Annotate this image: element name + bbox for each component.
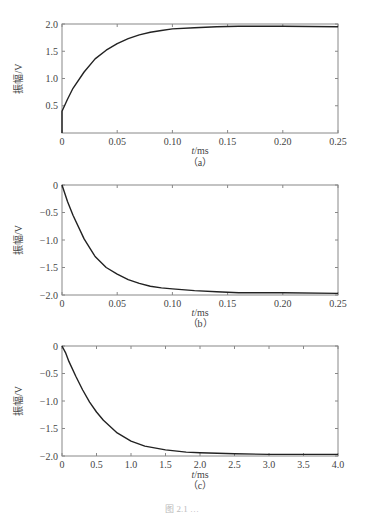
x-tick-label: 0.20 bbox=[274, 136, 292, 147]
x-tick-label: 2.5 bbox=[228, 459, 241, 470]
x-tick-label: 0.25 bbox=[329, 298, 347, 309]
x-tick-label: 0 bbox=[60, 298, 65, 309]
plot-frame bbox=[62, 24, 338, 133]
panel-label: （a） bbox=[188, 157, 212, 168]
y-tick-label: 0 bbox=[53, 180, 58, 191]
y-tick-label: −1.5 bbox=[40, 423, 58, 434]
y-tick-label: −0.5 bbox=[40, 368, 58, 379]
x-tick-label: 0.15 bbox=[219, 298, 237, 309]
x-tick-label: 0.25 bbox=[329, 136, 347, 147]
y-tick-label: 0.5 bbox=[46, 100, 59, 111]
x-tick-label: 3.0 bbox=[263, 459, 276, 470]
x-tick-label: 0.15 bbox=[219, 136, 237, 147]
panel-label: （c） bbox=[188, 480, 212, 491]
x-tick-label: 0.05 bbox=[108, 298, 126, 309]
chart-panel-2: 00.050.100.150.200.250−0.5−1.0−1.5−2.0振幅… bbox=[12, 180, 347, 330]
y-tick-label: −1.0 bbox=[40, 396, 58, 407]
y-tick-label: −2.0 bbox=[40, 290, 58, 301]
x-tick-label: 0.05 bbox=[108, 136, 126, 147]
x-tick-label: 1.5 bbox=[159, 459, 172, 470]
figure-caption: 图 2.1 … bbox=[165, 504, 199, 514]
series-line bbox=[62, 185, 338, 293]
x-tick-label: 0.10 bbox=[164, 298, 182, 309]
y-tick-label: −2.0 bbox=[40, 451, 58, 462]
y-axis-label: 振幅/V bbox=[12, 224, 24, 255]
x-tick-label: 3.5 bbox=[297, 459, 310, 470]
x-tick-label: 0 bbox=[60, 136, 65, 147]
x-tick-label: 0.10 bbox=[164, 136, 182, 147]
y-tick-label: −1.0 bbox=[40, 235, 58, 246]
series-line bbox=[62, 346, 338, 454]
plot-frame bbox=[62, 346, 338, 456]
y-tick-label: 1.5 bbox=[46, 46, 59, 57]
x-axis-label: t/ms bbox=[191, 145, 208, 156]
chart-panel-1: 00.050.100.150.200.250.51.01.52.0振幅/Vt/m… bbox=[12, 19, 347, 169]
panel-label: （b） bbox=[188, 318, 213, 329]
x-tick-label: 0 bbox=[60, 459, 65, 470]
y-axis-label: 振幅/V bbox=[12, 63, 24, 94]
y-tick-label: −0.5 bbox=[40, 207, 58, 218]
y-tick-label: 0 bbox=[53, 341, 58, 352]
y-tick-label: 2.0 bbox=[46, 19, 59, 30]
figure: 00.050.100.150.200.250.51.01.52.0振幅/Vt/m… bbox=[0, 0, 365, 515]
plot-frame bbox=[62, 185, 338, 295]
chart-panel-3: 00.51.01.52.02.53.03.54.00−0.5−1.0−1.5−2… bbox=[12, 341, 344, 492]
x-tick-label: 0.5 bbox=[90, 459, 103, 470]
x-tick-label: 1.0 bbox=[125, 459, 138, 470]
series-line bbox=[62, 26, 338, 133]
x-tick-label: 4.0 bbox=[332, 459, 345, 470]
x-axis-label: t/ms bbox=[191, 469, 208, 480]
y-tick-label: 1.0 bbox=[46, 73, 59, 84]
x-axis-label: t/ms bbox=[191, 307, 208, 318]
y-axis-label: 振幅/V bbox=[12, 385, 24, 416]
y-tick-label: −1.5 bbox=[40, 262, 58, 273]
x-tick-label: 0.20 bbox=[274, 298, 292, 309]
